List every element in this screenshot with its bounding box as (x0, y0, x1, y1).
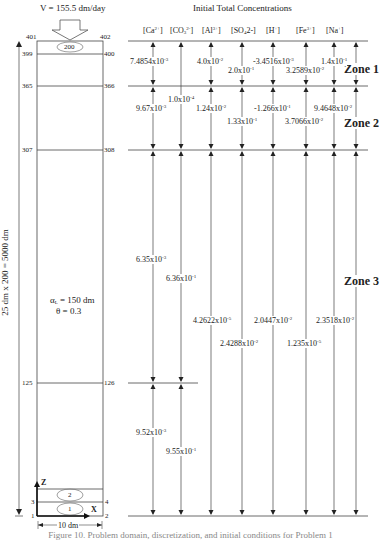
header-al: [Al3+] (202, 26, 221, 35)
value-zone3-upper-ca: 6.35x10-3 (136, 255, 166, 264)
header-co3: [CO32-] (170, 26, 193, 35)
node-3: 3 (31, 498, 35, 506)
node-401: 401 (26, 33, 37, 41)
value-zone1-h: -3.4516x10-3 (253, 57, 294, 66)
height-label: 25 dm x 200 = 5000 dm (1, 221, 10, 325)
node-307: 307 (22, 146, 33, 154)
header-ca: [Ca2+] (143, 26, 163, 35)
zone-1-label: Zone 1 (344, 63, 379, 75)
node-366: 366 (104, 82, 115, 90)
theta-label: θ = 0.3 (56, 307, 81, 316)
value-zone3-na: 2.3518x10-2 (316, 316, 354, 325)
alpha-label: αL = 150 dm (50, 296, 95, 305)
element-2: 2 (68, 491, 72, 499)
value-zone2-ca: 9.67x10-3 (136, 104, 166, 113)
node-200-element: 200 (64, 43, 75, 51)
value-zone2-so4: 1.33x10-1 (227, 117, 257, 126)
x-axis-label: X (91, 505, 97, 514)
node-399: 399 (22, 50, 33, 58)
value-zone3-lower-co3: 9.55x10-1 (166, 447, 196, 456)
value-zone3-fe: 1.235x10-5 (287, 339, 321, 348)
value-zone2-na: 9.4648x10-2 (314, 104, 352, 113)
value-zone12-co3: 1.0x10-4 (168, 95, 194, 104)
value-zone1-fe: 3.2589x10-2 (286, 66, 324, 75)
header-so4: [SO42-] (231, 26, 256, 35)
node-4: 4 (105, 498, 109, 506)
value-zone2-al: 1.24x10-2 (196, 104, 226, 113)
header-na: [Na+] (326, 26, 344, 35)
velocity-label: V = 155.5 dm/day (40, 4, 105, 13)
chart-title: Initial Total Concentrations (193, 4, 292, 13)
width-label: 10 dm (57, 521, 79, 530)
value-zone2-fe: 3.7066x10-2 (285, 117, 323, 126)
value-zone3-lower-ca: 9.52x10-3 (136, 428, 166, 437)
header-h: [H+] (266, 26, 280, 35)
value-zone3-al: 4.2622x10-5 (193, 316, 231, 325)
header-fe: [Fe3+] (296, 26, 315, 35)
node-365: 365 (22, 82, 33, 90)
node-2: 2 (105, 512, 109, 520)
z-axis-label: Z (41, 478, 46, 487)
inflow-arrow-icon (52, 20, 88, 40)
node-125: 125 (22, 379, 33, 387)
node-308: 308 (104, 146, 115, 154)
value-zone3-h: 2.0447x10-2 (254, 316, 292, 325)
value-zone1-so4: 2.0x10-1 (228, 66, 254, 75)
value-zone1-ca: 7.4854x10-3 (130, 57, 168, 66)
value-zone1-al: 4.0x10-2 (197, 57, 223, 66)
value-zone2-h: -1.266x10-1 (254, 104, 291, 113)
node-402: 402 (100, 33, 111, 41)
value-zone1-na: 1.4x10-1 (321, 57, 347, 66)
zone-3-label: Zone 3 (344, 275, 379, 287)
value-zone3-upper-co3: 6.36x10-1 (166, 274, 196, 283)
zone-2-label: Zone 2 (344, 117, 379, 129)
value-zone3-so4: 2.4288x10-2 (220, 339, 258, 348)
node-1: 1 (31, 512, 35, 520)
node-400: 400 (104, 50, 115, 58)
element-1: 1 (68, 505, 72, 513)
node-126: 126 (104, 379, 115, 387)
figure-caption: Figure 10. Problem domain, discretizatio… (0, 530, 381, 540)
